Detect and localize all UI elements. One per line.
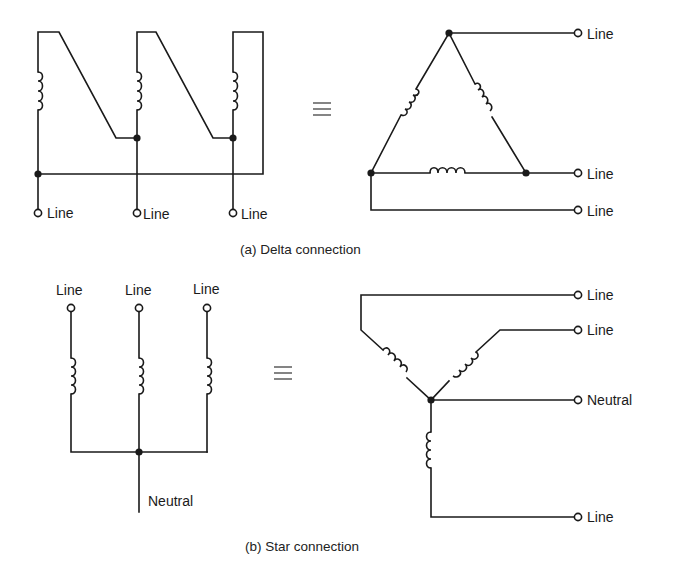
line-label: Line [241, 206, 268, 222]
winding-3-wire [38, 32, 263, 212]
line-label: Line [587, 322, 614, 338]
three-phase-connection-diagrams: Line Line Line Line Line Line (a) Delta … [0, 0, 673, 565]
delta-triangle-schematic: Line Line Line [367, 26, 613, 219]
star-y-schematic: Line Line Neutral Line [361, 287, 632, 525]
inductor-icon [139, 358, 144, 394]
inductor-icon [475, 83, 492, 111]
terminal-icon [574, 513, 581, 520]
inductor-icon [71, 358, 76, 394]
inductor-icon [430, 168, 465, 173]
star-caption: (b) Star connection [245, 539, 359, 554]
junction-dot [135, 448, 142, 455]
star-winding-schematic: Line Line Line Neutral [56, 281, 220, 512]
neutral-label: Neutral [587, 392, 632, 408]
junction-dot [34, 170, 41, 177]
inductor-icon [207, 358, 212, 394]
junction-dot [133, 134, 140, 141]
line-label: Line [56, 282, 83, 298]
inductor-icon [401, 89, 419, 115]
junction-dot [229, 134, 236, 141]
delta-winding-schematic: Line Line Line [34, 32, 267, 222]
inductor-icon [38, 72, 43, 110]
inductor-icon [383, 348, 407, 372]
arm-wire [431, 400, 574, 517]
terminal-icon [34, 209, 41, 216]
junction-dot [367, 169, 374, 176]
delta-caption: (a) Delta connection [240, 242, 361, 257]
terminal-icon [574, 169, 581, 176]
line-label: Line [587, 287, 614, 303]
line-lead [371, 173, 574, 210]
terminal-icon [203, 304, 210, 311]
terminal-icon [574, 396, 581, 403]
terminal-icon [133, 209, 140, 216]
line-label: Line [587, 26, 614, 42]
junction-dot [522, 169, 529, 176]
inductor-icon [233, 72, 238, 110]
line-label: Line [125, 282, 152, 298]
arm-wire [431, 330, 574, 400]
line-label: Line [143, 206, 170, 222]
line-label: Line [193, 281, 220, 297]
winding-2-wire [137, 32, 233, 212]
winding-1-wire [38, 32, 137, 174]
arm-wire [361, 295, 574, 400]
inductor-icon [427, 432, 432, 468]
terminal-icon [67, 304, 74, 311]
line-label: Line [47, 205, 74, 221]
junction-dot [445, 29, 452, 36]
terminal-icon [229, 209, 236, 216]
terminal-icon [574, 29, 581, 36]
line-label: Line [587, 166, 614, 182]
terminal-icon [574, 326, 581, 333]
inductor-icon [137, 72, 142, 110]
line-label: Line [587, 203, 614, 219]
terminal-icon [574, 206, 581, 213]
terminal-icon [135, 304, 142, 311]
inductor-icon [453, 352, 478, 377]
neutral-label: Neutral [148, 493, 193, 509]
junction-dot [427, 396, 434, 403]
equivalence-icon [313, 103, 331, 115]
terminal-icon [574, 291, 581, 298]
line-label: Line [587, 509, 614, 525]
equivalence-icon [274, 367, 292, 379]
